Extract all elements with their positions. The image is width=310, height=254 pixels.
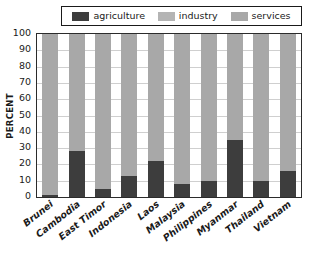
y-axis-tick-label: 20 xyxy=(19,159,31,169)
legend-swatch-agriculture xyxy=(72,12,89,21)
bar-stack xyxy=(280,34,296,197)
bar-segment-industry-services xyxy=(227,34,243,140)
legend-item-agriculture: agriculture xyxy=(72,11,145,21)
y-axis-tick-label: 100 xyxy=(13,28,31,38)
bar-segment-industry-services xyxy=(280,34,296,171)
bar-segment-agriculture xyxy=(148,161,164,197)
y-axis-tick-label: 30 xyxy=(19,142,31,152)
bar-segment-agriculture xyxy=(95,189,111,197)
plot-area xyxy=(36,33,302,198)
y-axis-tick-label: 40 xyxy=(19,126,31,136)
bar-stack xyxy=(174,34,190,197)
y-axis-tick-label: 50 xyxy=(19,110,31,120)
bar-stack xyxy=(69,34,85,197)
legend-label-agriculture: agriculture xyxy=(93,11,145,21)
bar-segment-industry-services xyxy=(148,34,164,161)
bar-segment-agriculture xyxy=(227,140,243,197)
legend-item-industry: industry xyxy=(158,11,218,21)
y-axis: PERCENT 1009080706050403020100 xyxy=(0,33,34,198)
bar-segment-agriculture xyxy=(253,181,269,197)
bar-segment-industry-services xyxy=(201,34,217,181)
x-axis: BruneiCambodiaEast TimorIndonesiaLaosMal… xyxy=(36,199,302,254)
bar-segment-agriculture xyxy=(201,181,217,197)
stacked-bar-chart: agriculture industry services PERCENT 10… xyxy=(0,0,310,254)
y-axis-tick-label: 90 xyxy=(19,45,31,55)
bar-segment-industry-services xyxy=(174,34,190,184)
bar-segment-agriculture xyxy=(280,171,296,197)
bar-stack xyxy=(95,34,111,197)
y-axis-tick-label: 80 xyxy=(19,61,31,71)
y-axis-tick-label: 0 xyxy=(25,191,31,201)
bar-segment-industry-services xyxy=(253,34,269,181)
bar-stack xyxy=(201,34,217,197)
y-axis-tick-label: 60 xyxy=(19,93,31,103)
bar-segment-agriculture xyxy=(69,151,85,197)
legend-item-services: services xyxy=(231,11,291,21)
bars-layer xyxy=(37,34,301,197)
bar-stack xyxy=(253,34,269,197)
bar-segment-industry-services xyxy=(121,34,137,176)
bar-segment-agriculture xyxy=(42,195,58,197)
bar-segment-industry-services xyxy=(69,34,85,151)
legend-label-industry: industry xyxy=(179,11,218,21)
bar-stack xyxy=(42,34,58,197)
y-axis-tick-label: 10 xyxy=(19,175,31,185)
legend-label-services: services xyxy=(252,11,291,21)
bar-segment-agriculture xyxy=(121,176,137,197)
y-axis-title: PERCENT xyxy=(5,84,15,148)
bar-stack xyxy=(148,34,164,197)
bar-segment-industry-services xyxy=(95,34,111,189)
y-axis-tick-label: 70 xyxy=(19,77,31,87)
legend-swatch-services xyxy=(231,12,248,21)
legend-swatch-industry xyxy=(158,12,175,21)
bar-segment-industry-services xyxy=(42,34,58,195)
bar-stack xyxy=(227,34,243,197)
bar-segment-agriculture xyxy=(174,184,190,197)
bar-stack xyxy=(121,34,137,197)
chart-legend: agriculture industry services xyxy=(61,6,302,26)
